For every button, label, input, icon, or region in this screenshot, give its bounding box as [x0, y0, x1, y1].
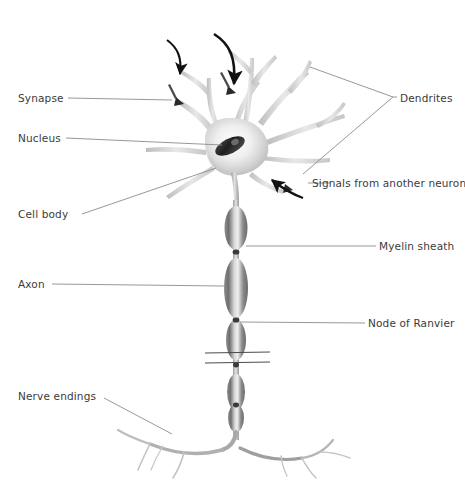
terminal-branch-right [302, 458, 316, 478]
nerve-endings-group [118, 430, 350, 478]
label-cell-body: Cell body [18, 208, 68, 220]
myelin-segment [225, 206, 248, 250]
leader-line-nerve-endings [104, 398, 172, 434]
dendrite-branch [146, 147, 206, 155]
label-dendrites: Dendrites [400, 92, 453, 104]
dendrite-branch [207, 78, 219, 127]
leader-line-cell-body [82, 168, 216, 214]
leader-line-node-of-ranvier [240, 322, 365, 323]
terminal-branch-left [138, 444, 150, 470]
myelin-segment [226, 320, 246, 360]
leader-line-dendrites-bracket [303, 67, 393, 174]
node-of-ranvier [233, 363, 239, 368]
dendrite-branch [249, 172, 284, 194]
leader-line-nucleus [66, 138, 222, 145]
axon-hillock [231, 172, 239, 202]
leader-line-axon [52, 284, 224, 286]
terminal-branch-left [151, 446, 163, 470]
break-line-upper [205, 352, 270, 353]
label-nerve-endings: Nerve endings [18, 390, 96, 402]
terminal-branch-left [173, 452, 184, 478]
myelin-sheath-group [224, 206, 248, 432]
dendrite-branch [266, 114, 345, 145]
terminal-branch-right [240, 448, 302, 459]
terminal-branch-right [320, 452, 350, 458]
myelin-segment [224, 258, 248, 318]
label-synapse: Synapse [18, 92, 64, 104]
synapse-bouton [226, 86, 236, 95]
terminal-branch-left [118, 430, 150, 444]
label-node-of-ranvier: Node of Ranvier [368, 317, 455, 329]
node-of-ranvier [233, 317, 240, 322]
neuron-diagram-canvas: Synapse Nucleus Cell body Axon Nerve end… [0, 0, 465, 486]
synapse-bouton-tail [168, 84, 177, 99]
label-axon: Axon [18, 278, 45, 290]
signal-arrow-left [167, 40, 180, 74]
terminal-branch-right [302, 440, 333, 458]
node-of-ranvier [233, 249, 240, 254]
myelin-segment [228, 404, 244, 432]
synapse-bouton-tail [220, 72, 230, 88]
leader-line-synapse [68, 98, 172, 100]
dendrite-branch [181, 71, 209, 95]
dendrite-branch [251, 55, 277, 87]
label-myelin-sheath: Myelin sheath [379, 240, 454, 252]
label-signals-from-another-neuron: Signals from another neuron [312, 177, 465, 189]
label-nucleus: Nucleus [18, 132, 61, 144]
terminal-trunk [222, 432, 236, 450]
break-line-lower [205, 362, 270, 363]
dendrite-branch [288, 60, 312, 94]
node-of-ranvier [233, 403, 239, 408]
